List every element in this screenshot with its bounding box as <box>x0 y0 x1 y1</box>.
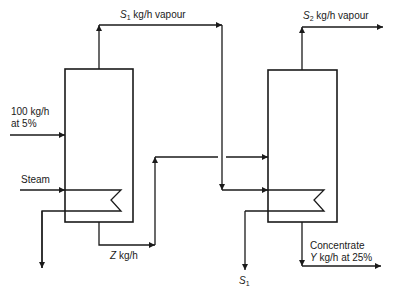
first-effect-vessel <box>65 69 133 222</box>
second-coil <box>245 190 324 211</box>
feed-label: 100 kg/h at 5% <box>11 106 49 130</box>
s1-condensate-label: S1 <box>239 275 250 287</box>
s2-vapour-label: S2 kg/h vapour <box>303 10 369 22</box>
concentrate-label: Concentrate Y kg/h at 25% <box>310 240 372 264</box>
steam-label: Steam <box>21 174 50 186</box>
s1-vapour-label: S1 kg/h vapour <box>120 9 186 21</box>
z-outlet <box>99 222 155 245</box>
second-effect-vessel <box>268 70 337 222</box>
z-flow-label: Z kg/h <box>110 250 138 262</box>
